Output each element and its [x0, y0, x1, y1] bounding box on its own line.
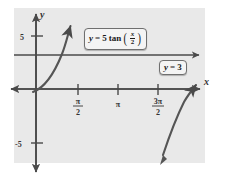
- curve-callout-arg-denominator: 2: [130, 39, 136, 46]
- x-tick-label-3pi-over-2: 3π 2: [152, 97, 164, 117]
- curve-callout-paren-open: (: [124, 33, 128, 44]
- x-tick-label-pi: π: [116, 100, 121, 109]
- x-tick-label-pi-over-2-numerator: π: [76, 97, 81, 106]
- curve-callout-paren-close: ): [138, 33, 142, 44]
- curve-equation-callout: y = 5 tan ( x 2 ): [84, 28, 147, 50]
- curve-callout-lhs: y: [89, 34, 93, 43]
- figure-container: y x 5 -5 π 2 π 3π 2 y = 5 tan ( x: [0, 0, 226, 180]
- curve-callout-fraction: x 2: [130, 31, 136, 47]
- y-axis-label: y: [39, 9, 45, 20]
- x-tick-label-pi-over-2-denominator: 2: [76, 108, 80, 117]
- line-callout-value: 3: [177, 63, 182, 72]
- curve-callout-coefficient: 5: [102, 34, 107, 43]
- line-callout-lhs: y: [164, 63, 168, 72]
- line-callout-equals: =: [170, 63, 175, 72]
- x-axis-label: x: [203, 76, 209, 87]
- curve-callout-function: tan: [109, 34, 122, 43]
- x-tick-label-pi-over-2: π 2: [73, 97, 83, 117]
- y-tick-label-5: 5: [20, 33, 24, 42]
- curve-callout-equals: =: [95, 34, 100, 43]
- graph-canvas: y x 5 -5 π 2 π 3π 2: [0, 0, 226, 180]
- tangent-branch-right-lower-arrow: [160, 155, 167, 165]
- y-tick-label-minus5: -5: [15, 140, 22, 149]
- x-tick-label-3pi-over-2-numerator: 3π: [154, 97, 163, 106]
- x-tick-label-3pi-over-2-denominator: 2: [156, 108, 160, 117]
- line-equation-callout: y = 3: [159, 60, 187, 75]
- tangent-branch-right: [163, 85, 196, 155]
